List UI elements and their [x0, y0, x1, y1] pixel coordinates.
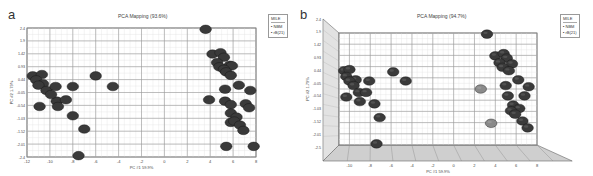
svg-text:-0.05: -0.05	[17, 91, 25, 95]
svg-text:2.4: 2.4	[316, 18, 321, 22]
svg-text:2.4: 2.4	[20, 27, 25, 31]
svg-text:-1.52: -1.52	[17, 130, 25, 134]
data-point	[519, 92, 531, 101]
svg-text:8: 8	[536, 163, 539, 168]
data-point	[219, 85, 231, 94]
svg-text:-6: -6	[94, 159, 98, 164]
data-point	[73, 151, 85, 160]
data-point	[243, 103, 255, 112]
svg-text:-10: -10	[47, 159, 54, 164]
svg-text:-12: -12	[24, 159, 31, 164]
scatter-plot: -12-10-8-6-4-2024682.41.91.420.930.44-0.…	[0, 0, 296, 176]
svg-text:-10: -10	[347, 163, 354, 168]
svg-text:-8: -8	[71, 159, 75, 164]
legend-entry: ▪ rB(21)	[563, 30, 577, 36]
data-point	[238, 126, 250, 135]
data-point	[374, 113, 386, 122]
data-point	[248, 142, 260, 151]
data-point	[475, 85, 487, 94]
legend: MILE ▪ NBM ▪ rB(21)	[560, 14, 580, 38]
data-point	[340, 93, 352, 102]
svg-text:0.93: 0.93	[18, 65, 25, 69]
svg-text:4: 4	[494, 163, 497, 168]
svg-text:-4: -4	[410, 163, 414, 168]
svg-text:-2: -2	[140, 159, 144, 164]
svg-text:-1.03: -1.03	[313, 107, 321, 111]
data-point	[387, 68, 399, 77]
svg-text:PC #1 59.9%: PC #1 59.9%	[130, 165, 154, 170]
svg-text:1.42: 1.42	[18, 52, 25, 56]
data-point	[78, 125, 90, 134]
legend-title: MILE	[271, 16, 285, 23]
svg-text:1.9: 1.9	[316, 30, 321, 34]
svg-text:-2.01: -2.01	[313, 133, 321, 137]
data-point	[200, 25, 212, 34]
data-point	[244, 86, 256, 95]
data-point	[34, 102, 46, 111]
svg-text:0: 0	[163, 159, 166, 164]
data-point	[233, 81, 245, 90]
panel-b: b PCA Mapping (94.7%) -10-8-6-4-2024682.…	[297, 0, 593, 176]
svg-text:-6: -6	[389, 163, 393, 168]
svg-text:0.44: 0.44	[314, 69, 321, 73]
data-point	[107, 82, 119, 91]
data-point	[481, 30, 493, 39]
data-point	[45, 90, 57, 99]
svg-text:2: 2	[186, 159, 189, 164]
svg-text:PC #1 59.9%: PC #1 59.9%	[426, 169, 450, 174]
svg-text:0.44: 0.44	[18, 78, 25, 82]
data-point	[60, 96, 72, 105]
svg-text:-2.01: -2.01	[17, 143, 25, 147]
svg-text:1.9: 1.9	[20, 39, 25, 43]
svg-text:-0.54: -0.54	[17, 104, 25, 108]
data-point	[363, 77, 375, 86]
data-point	[225, 100, 237, 109]
data-point	[503, 66, 515, 75]
svg-text:-4: -4	[117, 159, 121, 164]
svg-text:4: 4	[209, 159, 212, 164]
scatter-plot-3d: -10-8-6-4-2024682.41.91.420.930.44-0.05-…	[297, 0, 593, 176]
svg-text:2: 2	[473, 163, 476, 168]
data-point	[220, 142, 232, 151]
data-point	[522, 124, 534, 133]
svg-text:-1.52: -1.52	[313, 120, 321, 124]
data-point	[523, 82, 535, 91]
panel-a: a PCA Mapping (93.6%) -12-10-8-6-4-20246…	[0, 0, 296, 176]
data-point	[360, 88, 372, 97]
data-point	[400, 77, 412, 86]
legend-entry: ▪ rB(21)	[271, 30, 285, 36]
svg-text:6: 6	[515, 163, 518, 168]
data-point	[225, 71, 237, 80]
svg-text:-0.54: -0.54	[313, 94, 321, 98]
data-point	[371, 140, 383, 149]
data-point	[502, 92, 514, 101]
svg-text:-0.05: -0.05	[313, 82, 321, 86]
data-point	[67, 82, 79, 91]
data-point	[485, 119, 497, 128]
svg-text:-2.4: -2.4	[19, 156, 25, 160]
data-point	[369, 100, 381, 109]
data-point	[509, 110, 521, 119]
svg-text:-2: -2	[431, 163, 435, 168]
svg-text:PC #2 1.79%: PC #2 1.79%	[9, 80, 14, 104]
svg-text:PC #2 1.79%: PC #2 1.79%	[305, 77, 310, 101]
svg-text:1.42: 1.42	[314, 43, 321, 47]
svg-text:-2.5: -2.5	[315, 146, 321, 150]
svg-text:8: 8	[255, 159, 258, 164]
legend-title: MILE	[563, 16, 577, 23]
data-point	[512, 76, 524, 85]
data-point	[90, 72, 102, 81]
svg-text:0.93: 0.93	[314, 56, 321, 60]
svg-text:-8: -8	[368, 163, 372, 168]
legend: MILE ▪ NBM ▪ rB(21)	[268, 14, 288, 38]
svg-text:0: 0	[453, 163, 456, 168]
data-point	[67, 111, 79, 120]
svg-text:-1.03: -1.03	[17, 117, 25, 121]
svg-text:6: 6	[232, 159, 235, 164]
data-point	[203, 96, 215, 105]
data-point	[50, 82, 62, 91]
data-point	[500, 81, 512, 90]
data-point	[52, 102, 64, 111]
data-point	[354, 97, 366, 106]
